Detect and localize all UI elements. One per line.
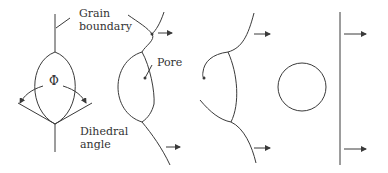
label-angle: angle bbox=[80, 138, 128, 151]
curved-boundary-top-b bbox=[152, 12, 164, 34]
tangent-line-left bbox=[18, 103, 55, 124]
label-pore: Pore bbox=[157, 56, 182, 69]
phi-symbol: Φ bbox=[49, 74, 59, 88]
isolated-pore bbox=[278, 63, 326, 111]
pore-right-arc bbox=[142, 52, 154, 122]
stage-3-near-breakaway bbox=[200, 13, 270, 163]
pore-dot bbox=[203, 77, 206, 80]
label-grain-boundary: Grain boundary bbox=[79, 7, 132, 33]
boundary-bottom bbox=[231, 122, 256, 163]
grain-boundary-leader bbox=[56, 18, 70, 28]
pore-left-bottom bbox=[200, 100, 231, 122]
tangent-line-right bbox=[55, 103, 92, 124]
pore-boundary-diagram: Grain boundary Pore Dihedral angle Φ bbox=[0, 0, 388, 173]
pore-left-top bbox=[203, 52, 228, 77]
label-grain: Grain bbox=[79, 7, 132, 20]
stage-4-separated bbox=[278, 12, 366, 165]
boundary-top bbox=[228, 13, 254, 52]
pore-left-arc bbox=[118, 52, 142, 122]
label-dihedral: Dihedral bbox=[80, 125, 128, 138]
pore-right-arc bbox=[228, 52, 237, 122]
label-boundary: boundary bbox=[79, 20, 132, 33]
angle-arrow-left bbox=[20, 86, 43, 103]
label-dihedral-angle: Dihedral angle bbox=[80, 125, 128, 151]
curved-boundary-bottom bbox=[142, 122, 170, 165]
boundary-dot bbox=[151, 33, 154, 36]
